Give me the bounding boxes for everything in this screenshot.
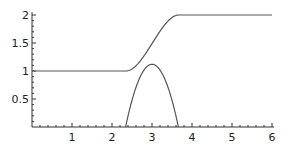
x-tick-label-2: 2 [109,131,116,144]
y-tick-label-0.5: 0.5 [12,93,30,106]
plot-area: 1 2 3 4 5 6 0.5 1 1.5 2 [0,0,289,149]
bump-curve [126,64,179,127]
tick-labels: 1 2 3 4 5 6 0.5 1 1.5 2 [12,9,276,144]
x-tick-label-5: 5 [229,131,236,144]
step-curve [32,15,272,71]
curves [32,15,272,127]
x-tick-label-3: 3 [149,131,156,144]
axes [32,12,274,127]
x-tick-label-6: 6 [269,131,276,144]
y-tick-label-2: 2 [22,9,29,22]
y-tick-label-1.5: 1.5 [12,37,30,50]
x-tick-label-1: 1 [69,131,76,144]
y-tick-label-1: 1 [22,65,29,78]
x-tick-label-4: 4 [189,131,196,144]
